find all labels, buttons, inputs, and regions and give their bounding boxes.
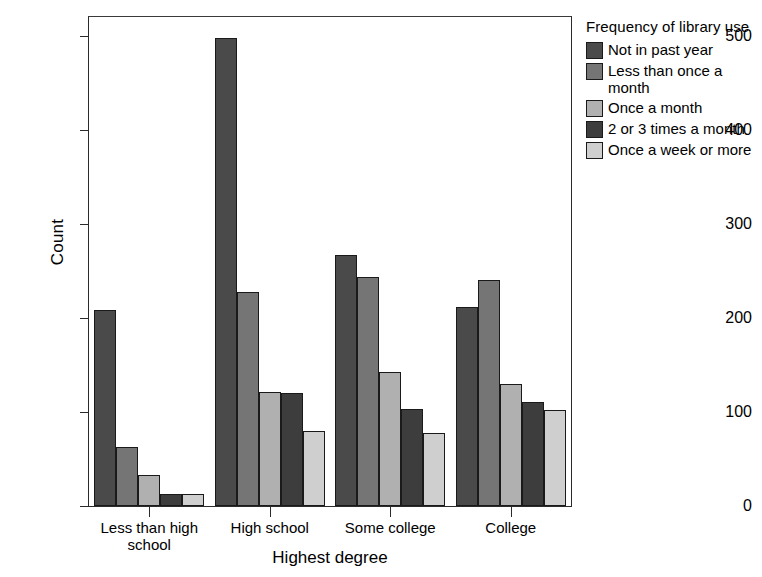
- y-tick-label: 300: [725, 215, 752, 233]
- y-tick-mark: [80, 506, 88, 507]
- legend-item: Less than once a month: [586, 62, 762, 96]
- bar: [215, 38, 237, 506]
- y-tick-mark: [80, 318, 88, 319]
- y-axis-title: Count: [48, 182, 68, 302]
- legend-swatch-icon: [586, 100, 603, 117]
- bar: [500, 384, 522, 506]
- legend-item-label: Not in past year: [608, 41, 713, 58]
- legend-items: Not in past yearLess than once a monthOn…: [586, 41, 762, 159]
- bar: [182, 494, 204, 506]
- bar: [160, 494, 182, 506]
- bar: [138, 475, 160, 506]
- legend-item-label: 2 or 3 times a month: [608, 120, 745, 137]
- legend-item-label: Once a week or more: [608, 141, 751, 158]
- bars-layer: [89, 17, 571, 506]
- y-tick-mark: [80, 36, 88, 37]
- legend-item: Once a week or more: [586, 141, 762, 159]
- x-tick-mark: [390, 507, 391, 517]
- bar: [116, 447, 138, 506]
- bar: [94, 310, 116, 506]
- bar: [281, 393, 303, 506]
- legend-swatch-icon: [586, 63, 603, 80]
- legend-item: 2 or 3 times a month: [586, 120, 762, 138]
- legend-swatch-icon: [586, 142, 603, 159]
- x-tick-label: Some college: [320, 519, 460, 536]
- y-tick-mark: [80, 224, 88, 225]
- legend-swatch-icon: [586, 121, 603, 138]
- bar: [423, 433, 445, 506]
- legend-item-label: Less than once a month: [608, 62, 722, 96]
- y-tick-mark: [80, 412, 88, 413]
- x-tick-mark: [511, 507, 512, 517]
- x-axis-title: Highest degree: [88, 548, 572, 568]
- legend-title: Frequency of library use: [586, 18, 762, 35]
- bar: [335, 255, 357, 506]
- legend: Frequency of library use Not in past yea…: [586, 18, 762, 162]
- x-tick-mark: [270, 507, 271, 517]
- bar: [456, 307, 478, 506]
- y-tick-mark: [80, 130, 88, 131]
- legend-item: Once a month: [586, 99, 762, 117]
- bar: [544, 410, 566, 506]
- bar: [357, 277, 379, 506]
- bar: [478, 280, 500, 506]
- bar: [522, 402, 544, 506]
- bar: [401, 409, 423, 506]
- legend-item: Not in past year: [586, 41, 762, 59]
- y-tick-label: 100: [725, 403, 752, 421]
- x-tick-label: College: [441, 519, 581, 536]
- x-tick-mark: [149, 507, 150, 517]
- legend-swatch-icon: [586, 42, 603, 59]
- legend-item-label: Once a month: [608, 99, 702, 116]
- y-tick-label: 200: [725, 309, 752, 327]
- bar: [259, 392, 281, 506]
- bar-chart-figure: 0100200300400500 Count Less than high sc…: [0, 0, 762, 577]
- bar: [237, 292, 259, 506]
- bar: [303, 431, 325, 506]
- x-tick-label: High school: [200, 519, 340, 536]
- y-tick-label: 0: [743, 497, 752, 515]
- bar: [379, 372, 401, 506]
